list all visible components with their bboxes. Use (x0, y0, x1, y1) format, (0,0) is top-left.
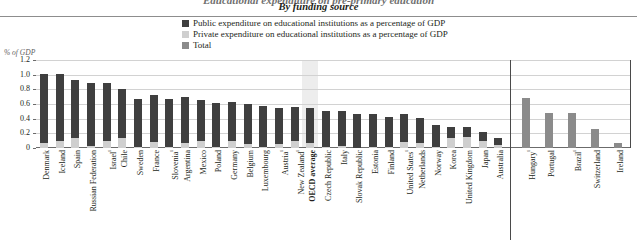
bar-segment-private (494, 145, 502, 148)
bar-segment-private (181, 143, 189, 148)
legend-swatch-private-icon (182, 31, 189, 38)
category-label: Norway (435, 150, 443, 176)
bar-stacked (291, 107, 299, 148)
bar-segment-private (432, 147, 440, 148)
bar-stacked (259, 106, 267, 148)
category-label: Hungary¹ (525, 150, 537, 180)
bar-segment-total (591, 129, 599, 148)
bar-segment-private (259, 147, 267, 148)
bar-segment-private (306, 143, 314, 148)
y-axis-tick-label: 0.4 (0, 115, 30, 123)
bar-segment-public (118, 89, 126, 139)
bar-segment-private (291, 141, 299, 148)
bar-stacked (56, 74, 64, 148)
category-label: Switzerland (594, 150, 602, 188)
bar-segment-public (181, 97, 189, 142)
bar-stacked (447, 127, 455, 148)
bar-segment-private (197, 141, 205, 148)
chart-subtitle: By funding source (0, 1, 637, 12)
bar-segment-total (545, 113, 553, 148)
category-label: France (153, 150, 161, 172)
y-axis-tick-mark (33, 148, 36, 149)
chart-root: Educational expenditure on pre-primary e… (0, 0, 637, 242)
bar-stacked (212, 103, 220, 148)
bar-segment-public (56, 74, 64, 141)
category-label: United States¹ (403, 150, 415, 195)
bar-total (545, 113, 553, 148)
legend-label-public: Public expenditure on educational instit… (193, 18, 445, 29)
bar-stacked (40, 74, 48, 148)
bar-segment-public (385, 117, 393, 146)
legend-swatch-total-icon (182, 42, 189, 49)
category-label: Belgium (247, 150, 255, 178)
bar-segment-public (432, 125, 440, 147)
bar-segment-public (400, 114, 408, 142)
bar-segment-public (338, 111, 346, 145)
category-label: Italy (341, 150, 349, 165)
legend-label-total: Total (193, 40, 211, 51)
bar-segment-private (275, 144, 283, 148)
y-axis-tick-label: 1.2 (0, 56, 30, 64)
bar-segment-private (118, 138, 126, 148)
bar-segment-private (103, 141, 111, 148)
bar-segment-private (463, 137, 471, 148)
bar-stacked (353, 114, 361, 148)
bar-segment-public (494, 138, 502, 145)
category-label: New Zealand¹ (294, 150, 306, 195)
y-axis-tick-label: 0.8 (0, 85, 30, 93)
bar-total (591, 129, 599, 148)
bar-segment-public (369, 114, 377, 147)
bar-segment-public (71, 80, 79, 139)
bar-total (522, 98, 530, 148)
legend-item-total: Total (182, 40, 448, 51)
bar-segment-private (416, 143, 424, 148)
bar-segment-private (87, 146, 95, 148)
category-label: Israel¹ (106, 150, 118, 169)
category-label: Chile (121, 150, 129, 167)
y-axis-tick-label: 1.0 (0, 71, 30, 79)
bar-segment-private (447, 138, 455, 148)
bar-segment-private (71, 138, 79, 148)
category-label: Russian Federation (90, 150, 98, 212)
category-label: Korea (450, 150, 458, 170)
bar-segment-public (197, 100, 205, 141)
bar-stacked (463, 127, 471, 148)
category-label: OECD average (309, 150, 317, 202)
category-label: Poland (215, 150, 223, 172)
bar-segment-private (212, 147, 220, 148)
category-label: Estonia (372, 150, 380, 174)
bar-segment-public (275, 108, 283, 144)
legend-label-private: Private expenditure on educational insti… (193, 29, 448, 40)
category-label: Australia (497, 150, 505, 179)
category-label: Denmark (43, 150, 51, 180)
bar-stacked (150, 95, 158, 148)
bar-segment-private (338, 146, 346, 148)
header-divider (0, 16, 637, 17)
bar-segment-public (228, 102, 236, 141)
category-labels: DenmarkIcelandSpainRussian FederationIsr… (0, 150, 637, 242)
category-label: Austria¹ (278, 150, 290, 175)
category-label: Mexico (200, 150, 208, 174)
bar-segment-private (385, 147, 393, 148)
bar-stacked (118, 89, 126, 148)
bar-stacked (275, 108, 283, 148)
bar-segment-public (87, 83, 95, 145)
bar-segment-public (322, 111, 330, 146)
category-label: Czech Republic (325, 150, 333, 201)
category-label: Ireland (617, 150, 625, 173)
bar-stacked (400, 114, 408, 148)
bar-segment-public (244, 104, 252, 144)
bar-segment-private (56, 141, 64, 148)
bar-segment-private (479, 141, 487, 148)
bar-stacked (385, 117, 393, 148)
category-label: Finland (388, 150, 396, 174)
bar-segment-public (291, 107, 299, 141)
legend-item-private: Private expenditure on educational insti… (182, 29, 448, 40)
bar-segment-public (416, 118, 424, 143)
bar-segment-total (522, 98, 530, 148)
bar-segment-total (568, 113, 576, 148)
bar-stacked (71, 80, 79, 148)
bar-stacked (197, 100, 205, 148)
bar-stacked (369, 114, 377, 148)
plot-area (36, 60, 630, 148)
